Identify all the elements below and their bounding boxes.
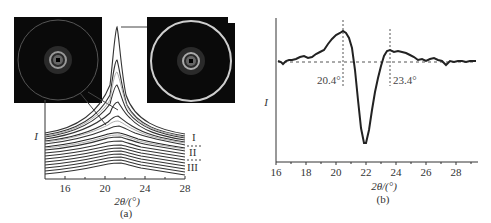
panel-b-label: (b) xyxy=(377,193,390,205)
panel-b-plot xyxy=(0,0,491,223)
panel-b-xtick: 18 xyxy=(301,166,312,178)
difference-curve xyxy=(278,31,476,143)
panel-b-xtick: 20 xyxy=(331,166,342,178)
panel-b-xtick: 26 xyxy=(421,166,432,178)
panel-b-xtick: 16 xyxy=(271,166,282,178)
panel-b-xtick: 24 xyxy=(391,166,402,178)
panel-b-xtick: 22 xyxy=(361,166,372,178)
panel-b-xtick: 28 xyxy=(451,166,462,178)
annotation-23-4: 23.4° xyxy=(393,74,417,86)
panel-b-xlabel: 2θ/(°) xyxy=(371,180,397,192)
annotation-20-4: 20.4° xyxy=(317,74,341,86)
panel-b-ylabel: I xyxy=(264,96,268,108)
